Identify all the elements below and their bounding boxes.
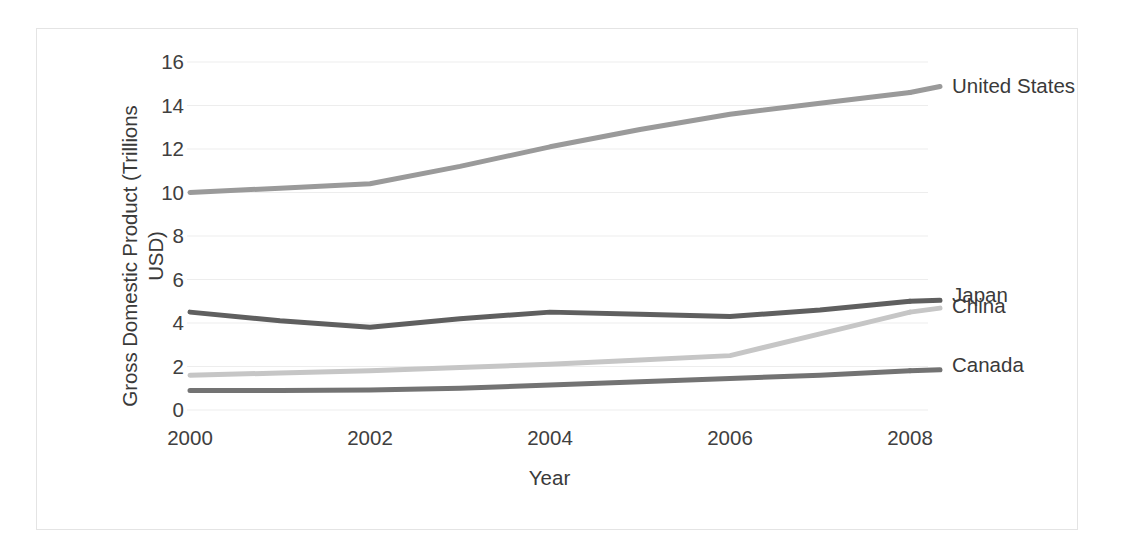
x-tick-label: 2000 <box>145 426 235 450</box>
chart-page: Gross Domestic Product (TrillionsUSD) 02… <box>0 0 1129 557</box>
y-tick-label: 12 <box>140 139 184 159</box>
y-tick-label: 2 <box>140 357 184 377</box>
x-axis-title-text: Year <box>529 466 570 489</box>
y-tick-label: 10 <box>140 183 184 203</box>
x-tick-label: 2006 <box>685 426 775 450</box>
x-axis-title: Year <box>0 466 1129 490</box>
series-label-china: China <box>952 295 1006 317</box>
x-tick-label: 2002 <box>325 426 415 450</box>
y-axis-title-line1: Gross Domestic Product (Trillions <box>118 105 141 406</box>
series-label-united-states: United States <box>952 75 1075 97</box>
y-tick-label: 0 <box>140 400 184 420</box>
y-tick-label: 16 <box>140 52 184 72</box>
y-tick-label: 8 <box>140 226 184 246</box>
y-tick-label: 14 <box>140 96 184 116</box>
x-tick-label: 2008 <box>865 426 955 450</box>
x-axis-tick-labels: 20002002200420062008 <box>0 426 1129 456</box>
y-tick-label: 6 <box>140 270 184 290</box>
series-label-canada: Canada <box>952 354 1024 376</box>
y-tick-label: 4 <box>140 313 184 333</box>
x-tick-label: 2004 <box>505 426 595 450</box>
